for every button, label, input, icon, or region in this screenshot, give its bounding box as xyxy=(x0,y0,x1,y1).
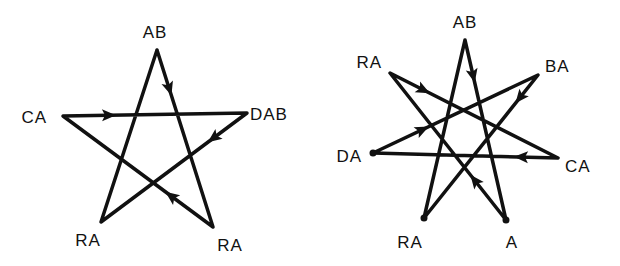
vertex-label: CA xyxy=(21,108,47,127)
heptagram-diagram: ABBACAARADARA xyxy=(336,13,590,252)
star-diagrams: ABDABRARACA ABBACAARADARA xyxy=(0,0,620,266)
vertex-label: RA xyxy=(75,231,101,250)
vertex-dot xyxy=(503,217,510,224)
vertex-dot xyxy=(370,150,377,157)
vertex-label: RA xyxy=(397,233,423,252)
vertex-label: AB xyxy=(453,13,478,32)
vertex-label: RA xyxy=(217,236,243,255)
heptagram-path xyxy=(373,40,558,220)
arrow-icon xyxy=(415,81,433,98)
arrow-icon xyxy=(161,80,177,97)
vertex-dot xyxy=(421,215,428,222)
vertex-label: AB xyxy=(143,23,168,42)
vertex-label: DAB xyxy=(250,105,288,124)
vertex-label: RA xyxy=(356,53,382,72)
vertex-label: A xyxy=(506,233,518,252)
vertex-label: DA xyxy=(336,147,362,166)
vertex-label: CA xyxy=(565,157,591,176)
pentagram-diagram: ABDABRARACA xyxy=(21,23,288,255)
vertex-label: BA xyxy=(545,57,570,76)
